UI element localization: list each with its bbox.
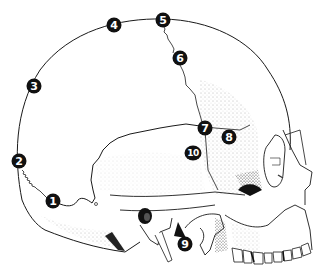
marker-3: 3 — [27, 79, 42, 94]
marker-4: 4 — [107, 18, 122, 33]
marker-10: 10 — [185, 146, 202, 161]
occipital-curve — [22, 200, 140, 252]
skull-lateral-drawing — [0, 0, 332, 273]
marker-9: 9 — [178, 237, 193, 252]
nasal-profile — [283, 130, 312, 205]
orbit-rim — [264, 135, 285, 187]
marker-8: 8 — [222, 130, 237, 145]
marker-2: 2 — [12, 154, 27, 169]
lambdoid-suture — [22, 170, 47, 198]
coronal-suture — [163, 25, 202, 122]
marker-6: 6 — [173, 51, 188, 66]
marker-7: 7 — [198, 121, 213, 136]
marker-1: 1 — [46, 194, 61, 209]
styloid-process — [155, 232, 172, 262]
marker-5: 5 — [156, 13, 171, 28]
